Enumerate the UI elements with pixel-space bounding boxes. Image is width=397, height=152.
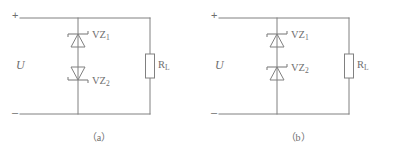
panel-caption-a: （a） [0, 129, 198, 144]
device-label-vz2-sub-a: 2 [106, 79, 110, 88]
device-label-vz1-a: VZ1 [92, 30, 110, 41]
load-label-name-a: R [158, 59, 165, 70]
terminal-negative-a: – [12, 107, 18, 118]
load-resistor-body-a [146, 54, 155, 78]
device-label-vz1-sub-a: 1 [106, 33, 110, 42]
circuit-panel-b: + – U VZ1 VZ2 RL （b） [199, 0, 397, 152]
circuit-panel-a: + – U VZ1 VZ2 RL （a） [0, 0, 198, 152]
device-label-vz2-name-a: VZ [92, 75, 106, 86]
load-label-name-b: R [357, 59, 364, 70]
terminal-positive-a: + [12, 10, 18, 21]
source-label-a: U [16, 59, 25, 71]
load-label-a: RL [158, 60, 170, 71]
device-label-vz1-sub-b: 1 [305, 33, 309, 42]
device-label-vz2-b: VZ2 [291, 63, 309, 74]
device-label-vz1-name-b: VZ [291, 29, 305, 40]
source-label-b: U [215, 59, 224, 71]
load-label-b: RL [357, 60, 369, 71]
device-label-vz1-b: VZ1 [291, 30, 309, 41]
figure-root: + – U VZ1 VZ2 RL （a） [0, 0, 397, 152]
load-resistor-body-b [345, 54, 354, 78]
device-label-vz2-a: VZ2 [92, 76, 110, 87]
device-label-vz1-name-a: VZ [92, 29, 106, 40]
terminal-positive-b: + [211, 10, 217, 21]
panel-caption-b: （b） [199, 129, 397, 144]
load-label-sub-a: L [165, 63, 170, 72]
load-label-sub-b: L [364, 63, 369, 72]
device-label-vz2-name-b: VZ [291, 62, 305, 73]
device-label-vz2-sub-b: 2 [305, 66, 309, 75]
terminal-negative-b: – [211, 107, 217, 118]
